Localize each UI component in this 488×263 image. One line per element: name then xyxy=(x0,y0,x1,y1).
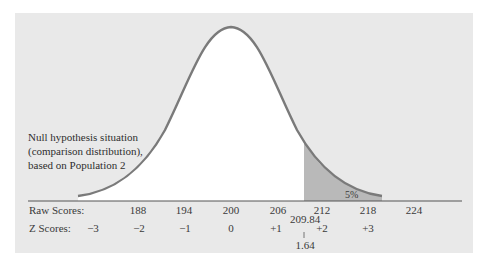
z-tick: +3 xyxy=(362,222,374,234)
z-tick: −3 xyxy=(87,222,99,234)
raw-tick: 218 xyxy=(360,204,377,216)
shaded-percent-label: 5% xyxy=(345,189,358,200)
raw-tick: 194 xyxy=(176,204,193,216)
z-tick: +1 xyxy=(270,222,282,234)
raw-scores-label: Raw Scores: xyxy=(29,204,84,216)
raw-tick: 188 xyxy=(130,204,147,216)
raw-tick: 224 xyxy=(406,204,423,216)
rejection-region xyxy=(304,142,382,201)
cutoff-raw-label: 209.84 xyxy=(290,213,320,225)
z-tick: −2 xyxy=(133,222,145,234)
cutoff-z-label: 1.64 xyxy=(295,239,314,251)
raw-tick: 200 xyxy=(223,204,240,216)
description-line: based on Population 2 xyxy=(28,158,143,172)
z-tick: 0 xyxy=(228,222,234,234)
description-line: (comparison distribution), xyxy=(28,144,143,158)
z-tick: −1 xyxy=(179,222,191,234)
distribution-description: Null hypothesis situation (comparison di… xyxy=(28,130,143,172)
description-line: Null hypothesis situation xyxy=(28,130,143,144)
raw-tick: 206 xyxy=(270,204,287,216)
curve-fill xyxy=(78,27,382,201)
z-scores-label: Z Scores: xyxy=(29,222,71,234)
